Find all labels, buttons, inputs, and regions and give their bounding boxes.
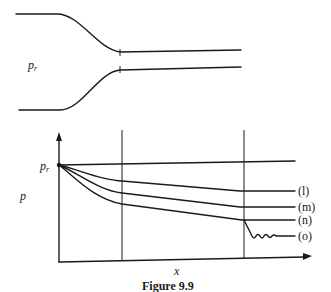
curve-label-o: (o) [298, 229, 312, 243]
x-axis-label: x [173, 264, 180, 278]
nozzle-lower-wall [19, 67, 241, 110]
origin-pressure-label: pr [39, 159, 50, 174]
figure-caption: Figure 9.9 [142, 279, 194, 292]
curve-label-n: (n) [298, 213, 312, 227]
x-axis-arrowhead [303, 253, 312, 260]
curve-n [59, 165, 295, 220]
curve-label-m: (m) [298, 200, 315, 214]
figure-canvas: pr (l) (m) (n) (o) pr p x Figure 9.9 [0, 0, 331, 292]
curve-l [59, 165, 295, 191]
y-axis-arrowhead [56, 132, 62, 141]
curve-flat [59, 161, 295, 165]
x-axis [59, 257, 305, 262]
curve-o [244, 220, 295, 238]
y-axis-label: p [19, 189, 26, 203]
curve-label-l: (l) [298, 184, 309, 198]
reservoir-pressure-label: pr [27, 58, 38, 73]
nozzle-sketch: pr [16, 14, 241, 110]
nozzle-upper-wall [16, 14, 241, 52]
pressure-plot: (l) (m) (n) (o) pr p x [19, 130, 315, 278]
